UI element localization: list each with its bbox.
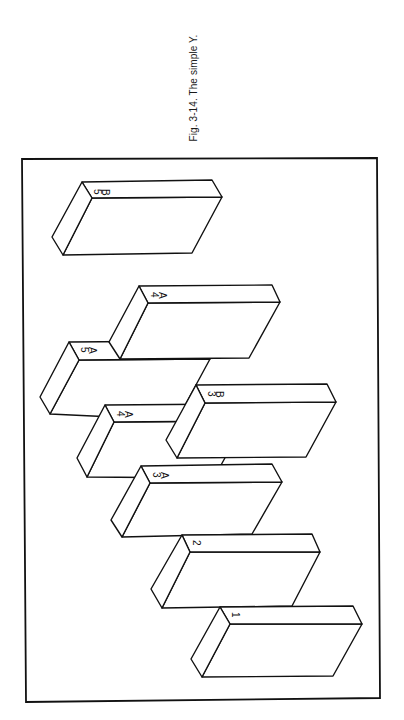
block-1: 1	[191, 606, 362, 677]
block-3A-label-2: A	[159, 472, 170, 479]
block-3B-label-2: B	[214, 391, 225, 398]
block-1-label: 1	[230, 612, 241, 618]
block-5B: 5 B	[52, 180, 222, 255]
block-4A-upper: 4 A	[109, 285, 280, 359]
block-2-label: 2	[191, 540, 202, 546]
diagram-canvas: 5 B 5 A 4 A 4 A 3 B 3 A	[0, 0, 404, 720]
block-4A-upper-label-2: A	[157, 292, 168, 299]
block-3A: 3 A	[111, 464, 282, 537]
block-5A-label-2: A	[87, 347, 98, 354]
block-3B: 3 B	[166, 384, 336, 458]
block-4A-lower-label-2: A	[123, 411, 134, 418]
block-2: 2	[151, 534, 320, 608]
block-5B-label-2: B	[100, 189, 111, 196]
